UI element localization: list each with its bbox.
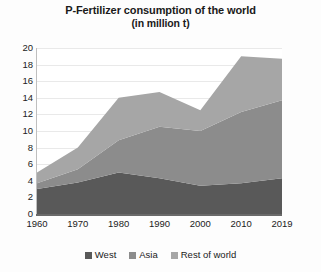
x-axis-tick-label: 1990 bbox=[137, 218, 183, 229]
y-axis-tick-label: 14 bbox=[8, 93, 33, 103]
legend-swatch-icon bbox=[171, 252, 178, 259]
chart-container: P-Fertilizer consumption of the world (i… bbox=[0, 0, 321, 272]
legend-swatch-icon bbox=[129, 252, 136, 259]
y-axis-tick-label: 2 bbox=[8, 192, 33, 202]
legend-label: Rest of world bbox=[181, 250, 236, 260]
x-axis-tick-label: 1960 bbox=[14, 218, 60, 229]
y-axis-tick-label: 10 bbox=[8, 126, 33, 136]
y-axis-tick-label: 6 bbox=[8, 159, 33, 169]
x-axis-tick-label: 2010 bbox=[218, 218, 264, 229]
y-axis-tick-label: 16 bbox=[8, 76, 33, 86]
x-axis-tick-label: 1980 bbox=[96, 218, 142, 229]
legend-item[interactable]: Asia bbox=[129, 250, 157, 260]
y-axis-tick-labels: 02468101214161820 bbox=[0, 0, 321, 272]
y-axis-tick-label: 12 bbox=[8, 109, 33, 119]
x-axis-tick-label: 1970 bbox=[55, 218, 101, 229]
y-axis-tick-label: 18 bbox=[8, 60, 33, 70]
legend-item[interactable]: West bbox=[85, 250, 116, 260]
y-axis-tick-label: 8 bbox=[8, 143, 33, 153]
y-axis-tick-label: 20 bbox=[8, 43, 33, 53]
legend-label: West bbox=[95, 250, 116, 260]
legend-item[interactable]: Rest of world bbox=[171, 250, 236, 260]
y-axis-tick-label: 4 bbox=[8, 176, 33, 186]
x-axis-tick-label: 2000 bbox=[177, 218, 223, 229]
x-axis-tick-label: 2019 bbox=[259, 218, 305, 229]
chart-legend: WestAsiaRest of world bbox=[0, 250, 321, 260]
legend-label: Asia bbox=[139, 250, 157, 260]
legend-swatch-icon bbox=[85, 252, 92, 259]
